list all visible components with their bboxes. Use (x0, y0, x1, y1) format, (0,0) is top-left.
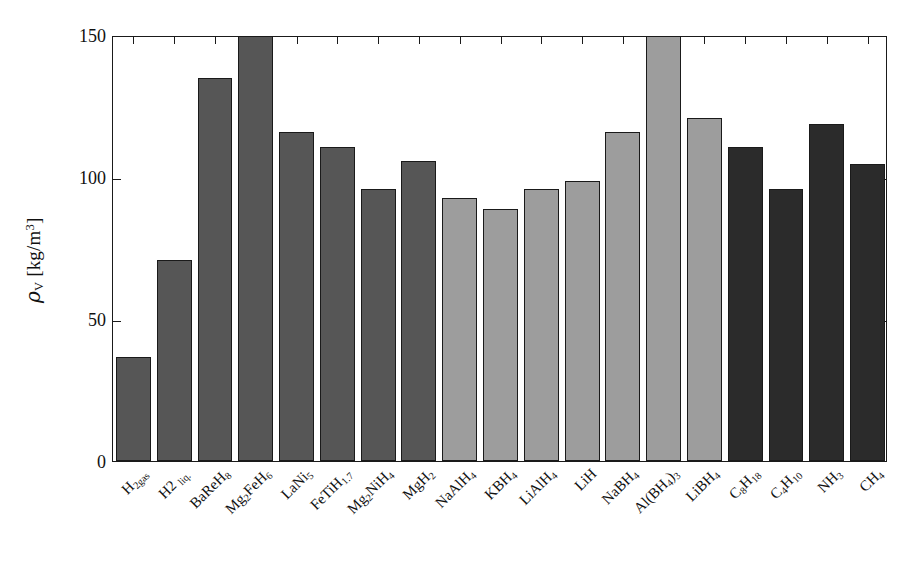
bar (605, 132, 640, 461)
bar (116, 357, 151, 461)
bar (320, 147, 355, 461)
x-axis-tick-labels: H2gasH2 liq.BaReH8Mg2FeH6LaNi5FeTiH1.7Mg… (112, 466, 887, 565)
volumetric-hydrogen-density-bar-chart: ρV [kg/m3] 050100150 H2gasH2 liq.BaReH8M… (0, 0, 910, 565)
rho-subscript: V (32, 282, 46, 291)
bar (238, 36, 273, 461)
bar (279, 132, 314, 461)
y-axis-tick-label: 150 (62, 27, 106, 45)
x-axis-tick-label: C4H10 (767, 466, 804, 503)
x-axis-tick-label: NaAlH4 (432, 466, 478, 512)
bar (646, 36, 681, 461)
formula-base: LiH (571, 465, 599, 493)
bar (401, 161, 436, 461)
y-axis-tick-label: 50 (62, 311, 106, 329)
y-axis-unit-close: ] (23, 217, 44, 224)
bar (157, 260, 192, 461)
bar (361, 189, 396, 461)
bar (850, 164, 885, 461)
x-axis-tick-label: LiAlH4 (517, 466, 560, 509)
formula-base: NaAlH (432, 469, 474, 511)
y-axis-tick-labels: 050100150 (58, 0, 106, 565)
bar (524, 189, 559, 461)
bar (565, 181, 600, 461)
bar-series (113, 37, 886, 461)
bar (198, 78, 233, 461)
x-axis-tick-label: LiBH4 (684, 466, 724, 506)
x-axis-tick-label: KBH4 (482, 466, 520, 504)
y-axis-unit-exponent: 3 (23, 224, 37, 230)
y-axis-title-text: ρV [kg/m3] (21, 217, 48, 303)
x-axis-tick-label: CH4 (856, 466, 886, 496)
bar (687, 118, 722, 461)
x-axis-tick-label: C8H18 (727, 466, 764, 503)
x-axis-tick-label: LiH (572, 466, 600, 494)
bar (809, 124, 844, 461)
y-axis-tick-label: 0 (62, 453, 106, 471)
rho-symbol: ρ (21, 291, 45, 303)
bar (728, 147, 763, 461)
x-axis-tick-label: Al(BH4)3 (631, 466, 683, 518)
plot-area (112, 36, 887, 462)
bar (442, 198, 477, 461)
y-axis-title: ρV [kg/m3] (14, 170, 54, 350)
x-axis-tick-label: NH3 (815, 466, 846, 497)
y-axis-tick-label: 100 (62, 169, 106, 187)
x-axis-tick-label: H2gas (120, 466, 153, 499)
bar (483, 209, 518, 461)
bar (769, 189, 804, 461)
y-axis-unit-open: [kg/m (23, 230, 44, 276)
